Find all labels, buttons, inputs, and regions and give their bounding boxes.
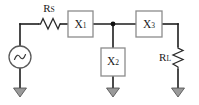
- ground-triangle-icon: [107, 88, 120, 97]
- reactance-x2: X2: [101, 48, 125, 76]
- junction-node-dot: [111, 22, 116, 27]
- ground-load: [172, 88, 185, 97]
- ground-source: [14, 88, 27, 97]
- ground-triangle-icon: [172, 88, 185, 97]
- ground-triangle-icon: [14, 88, 27, 97]
- resistor-zigzag-horizontal: [38, 19, 61, 30]
- circuit-diagram: RS X1 X2 X3: [0, 0, 199, 105]
- reactance-x3: X3: [136, 11, 162, 37]
- reactance-x1: X1: [68, 11, 93, 37]
- load-resistor: RL: [159, 46, 183, 70]
- ac-voltage-source: [9, 46, 31, 68]
- source-resistor-label: RS: [43, 2, 55, 15]
- source-resistor: RS: [38, 2, 61, 29]
- load-resistor-label: RL: [159, 51, 171, 64]
- ground-x2: [107, 88, 120, 97]
- resistor-zigzag-vertical: [173, 46, 183, 70]
- circuit-schematic-canvas: RS X1 X2 X3: [0, 0, 199, 105]
